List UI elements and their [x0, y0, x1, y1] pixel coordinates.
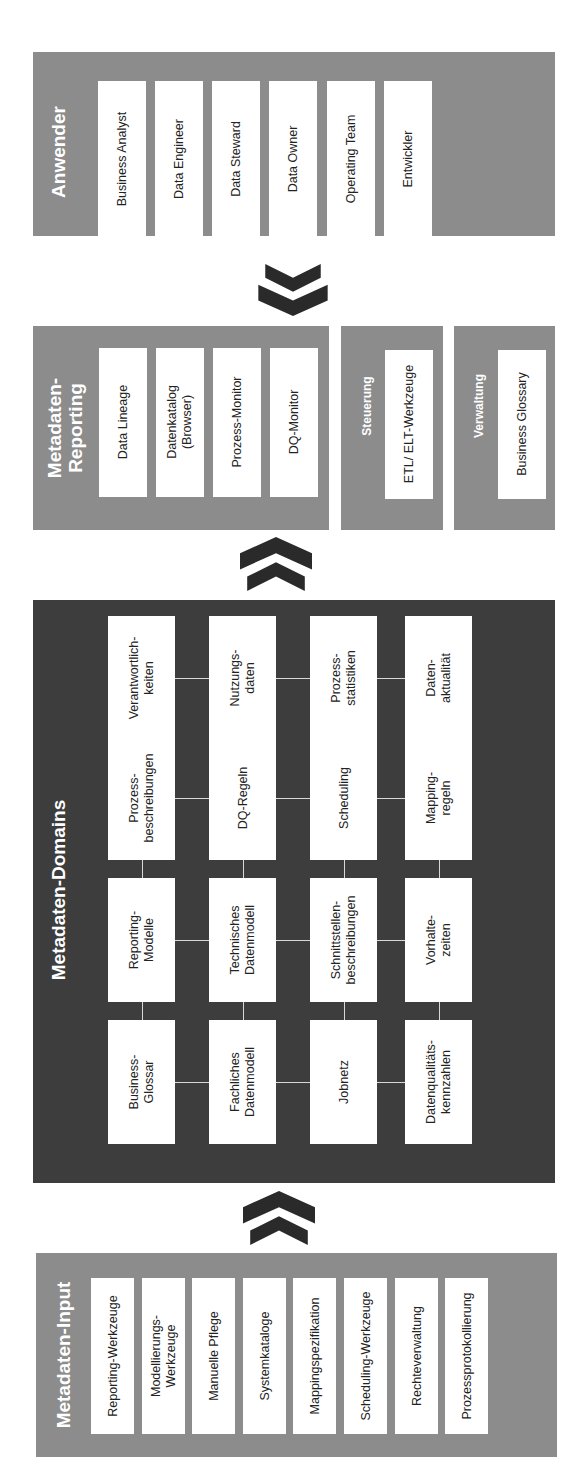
connector: [344, 860, 345, 878]
domain-label: Daten-aktualität: [424, 653, 454, 703]
domain-label: Vorhalte-zeiten: [424, 915, 454, 965]
connector: [439, 1002, 440, 1020]
domain-label: FachlichesDatenmodell: [228, 1047, 258, 1117]
reporting-tool-box: Datenkatalog(Browser): [156, 348, 204, 497]
user-role-label: Data Steward: [229, 121, 244, 197]
connector: [243, 1002, 244, 1020]
user-role-label-line: Data Engineer: [172, 119, 187, 199]
user-role-label: Entwickler: [401, 131, 416, 188]
domain-label: DQ-Regeln: [235, 767, 250, 830]
input-source-label-line: Systemkataloge: [257, 1312, 272, 1401]
domain-box: Prozess-statistiken: [310, 616, 377, 740]
domain-label: TechnischesDatenmodell: [228, 905, 258, 975]
domain-label-line: Modelle: [142, 911, 157, 969]
domain-label-line: Prozess-: [127, 754, 142, 843]
domain-label-line: keiten: [142, 637, 157, 720]
user-role-box: Data Steward: [212, 81, 260, 237]
input-source-label-line: Rechteverwaltung: [409, 1306, 424, 1406]
admin-tool-box: Business Glossary: [498, 350, 546, 499]
user-role-label: Data Engineer: [172, 119, 187, 199]
input-source-label: Scheduling-Werkzeuge: [358, 1291, 373, 1420]
input-source-box: Manuelle Pflege: [192, 1278, 235, 1434]
domain-box: Nutzungs-daten: [209, 616, 276, 740]
domain-box: TechnischesDatenmodell: [209, 878, 276, 1002]
input-source-label-line: Mappingspezifikation: [307, 1298, 322, 1415]
input-source-box: Prozessprotokollierung: [445, 1278, 488, 1434]
domain-label: Scheduling: [336, 767, 351, 829]
domain-label-line: Verantwortlich-: [127, 637, 142, 720]
input-source-label-line: Modellierungs-: [149, 1315, 164, 1397]
domain-label-line: daten: [243, 650, 258, 707]
reporting-tool-label: Prozess-Monitor: [230, 377, 245, 468]
input-source-label-line: Scheduling-Werkzeuge: [358, 1291, 373, 1420]
user-role-label-line: Operating Team: [344, 115, 359, 204]
domain-box: Reporting-Modelle: [108, 878, 175, 1002]
domain-box: FachlichesDatenmodell: [209, 1020, 276, 1144]
user-role-label-line: Data Owner: [286, 126, 301, 193]
user-role-label: Operating Team: [344, 115, 359, 204]
domain-label-line: aktualität: [439, 653, 454, 703]
domain-label: Prozess-statistiken: [329, 650, 359, 706]
user-role-box: Business Analyst: [98, 81, 146, 237]
connector: [142, 860, 143, 878]
reporting-tool-label-line: (Browser): [180, 385, 195, 459]
reporting-tool-label: Datenkatalog(Browser): [165, 385, 195, 459]
input-source-box: Systemkataloge: [243, 1278, 286, 1434]
user-role-box: Data Owner: [269, 81, 317, 237]
panel-title-input: Metadaten-Input: [53, 1282, 74, 1429]
domain-label-line: DQ-Regeln: [235, 767, 250, 830]
connector: [377, 678, 405, 679]
domain-label-line: Fachliches: [228, 1047, 243, 1117]
panel-title-reporting: Metadaten-Reporting: [44, 378, 86, 478]
connector: [377, 1082, 405, 1083]
domain-label-line: Scheduling: [336, 767, 351, 829]
panel-title-anwender: Anwender: [48, 106, 69, 198]
user-role-box: Entwickler: [384, 81, 432, 237]
domain-label-line: statistiken: [344, 650, 359, 706]
input-source-box: Scheduling-Werkzeuge: [344, 1278, 387, 1434]
domain-label-line: Technisches: [228, 905, 243, 975]
input-source-label-line: Reporting-Werkzeuge: [105, 1295, 120, 1416]
panel-title-anwender-line: Anwender: [48, 106, 69, 198]
domain-label-line: regeln: [439, 772, 454, 824]
reporting-tool-label-line: DQ-Monitor: [287, 390, 302, 455]
admin-tool-label: Business Glossary: [515, 372, 530, 476]
control-tool-label: ETL/ ELT-Werkzeuge: [402, 365, 417, 483]
domain-label-line: beschreibungen: [142, 754, 157, 843]
reporting-tool-box: Data Lineage: [99, 348, 147, 497]
domain-label-line: kennzahlen: [439, 1040, 454, 1124]
input-source-label: Reporting-Werkzeuge: [105, 1295, 120, 1416]
domain-box: Datenqualitäts-kennzahlen: [405, 1020, 472, 1144]
connector: [175, 798, 209, 799]
domain-label: Business-Glossar: [127, 1055, 157, 1110]
domain-label-line: Datenmodell: [243, 1047, 258, 1117]
domain-label: Prozess-beschreibungen: [127, 754, 157, 843]
connector: [276, 798, 310, 799]
control-tool-box: ETL/ ELT-Werkzeuge: [385, 350, 433, 499]
connector: [175, 1082, 209, 1083]
panel-steuerung: SteuerungETL/ ELT-Werkzeuge: [341, 326, 443, 530]
domain-label-line: Schnittstellen-: [329, 896, 344, 985]
panel-title-reporting-line: Reporting: [65, 378, 86, 478]
panel-title-domains-line: Metadaten-Domains: [48, 800, 69, 981]
domain-box: Mapping-regeln: [405, 736, 472, 860]
input-source-box: Rechteverwaltung: [395, 1278, 438, 1434]
reporting-tool-box: Prozess-Monitor: [213, 348, 261, 497]
domain-label: Datenqualitäts-kennzahlen: [424, 1040, 454, 1124]
input-source-label: Manuelle Pflege: [206, 1311, 221, 1401]
input-source-label: Systemkataloge: [257, 1312, 272, 1401]
double-chevron-down-icon: [253, 264, 333, 316]
domain-label-line: Daten-: [424, 653, 439, 703]
domain-label-line: Mapping-: [424, 772, 439, 824]
domain-box: Schnittstellen-beschreibungen: [310, 878, 377, 1002]
domain-label-line: Jobnetz: [336, 1060, 351, 1104]
panel-title-steuerung-line: Steuerung: [360, 376, 374, 435]
connector: [439, 860, 440, 878]
domain-label-line: beschreibungen: [344, 896, 359, 985]
domain-label-line: Vorhalte-: [424, 915, 439, 965]
connector: [142, 1002, 143, 1020]
admin-tool-label-line: Business Glossary: [515, 372, 530, 476]
reporting-tool-box: DQ-Monitor: [270, 348, 318, 497]
input-source-label: Mappingspezifikation: [307, 1298, 322, 1415]
input-source-label: Prozessprotokollierung: [459, 1292, 474, 1419]
